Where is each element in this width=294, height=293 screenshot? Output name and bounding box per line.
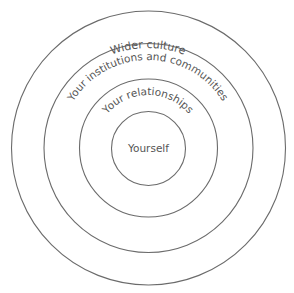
concentric-circles-diagram: Wider culture Your institutions and comm… <box>0 0 294 293</box>
label-yourself: Yourself <box>127 142 169 154</box>
